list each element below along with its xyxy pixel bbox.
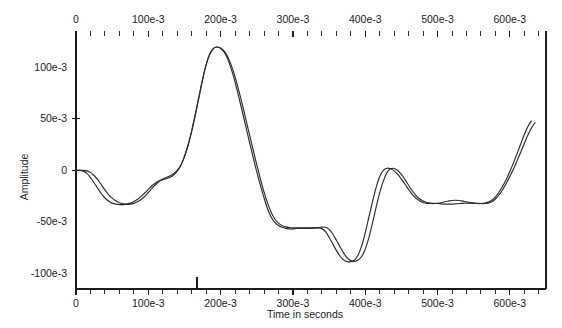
- waveform-plot: 0100e-3200e-3300e-3400e-3500e-3600e-3 01…: [0, 0, 562, 328]
- x-bottom-tick-label: 0: [73, 297, 79, 309]
- x-top-tick-label: 0: [73, 13, 79, 25]
- x-top-tick-label: 200e-3: [204, 13, 237, 25]
- x-bottom-tick-label: 200e-3: [204, 297, 237, 309]
- y-axis-title: Amplitude: [18, 154, 30, 201]
- y-axis-tick-label: 100e-3: [34, 61, 67, 73]
- x-bottom-tick-label: 500e-3: [421, 297, 454, 309]
- y-axis-tick-label: -100e-3: [31, 267, 67, 279]
- x-axis-title: Time in seconds: [267, 308, 343, 320]
- x-top-tick-label: 500e-3: [421, 13, 454, 25]
- chart-figure: 0100e-3200e-3300e-3400e-3500e-3600e-3 01…: [0, 0, 562, 328]
- x-bottom-tick-label: 100e-3: [132, 297, 165, 309]
- x-axis-top-labels: 0100e-3200e-3300e-3400e-3500e-3600e-3: [73, 13, 526, 25]
- waveform-trace-1: [76, 47, 532, 262]
- x-top-tick-label: 300e-3: [277, 13, 310, 25]
- y-axis-labels: 100e-350e-30-50e-3-100e-3: [31, 61, 67, 279]
- x-axis-bottom-ticks: [76, 289, 539, 295]
- y-axis-tick-label: -50e-3: [37, 215, 68, 227]
- x-axis-top-ticks: [76, 31, 539, 37]
- y-axis-tick-label: 50e-3: [40, 112, 67, 124]
- waveform-trace-2: [76, 47, 535, 261]
- x-top-tick-label: 400e-3: [349, 13, 382, 25]
- x-bottom-tick-label: 600e-3: [493, 297, 526, 309]
- x-top-tick-label: 600e-3: [493, 13, 526, 25]
- y-axis-tick-label: 0: [61, 164, 67, 176]
- x-bottom-tick-label: 400e-3: [349, 297, 382, 309]
- x-top-tick-label: 100e-3: [132, 13, 165, 25]
